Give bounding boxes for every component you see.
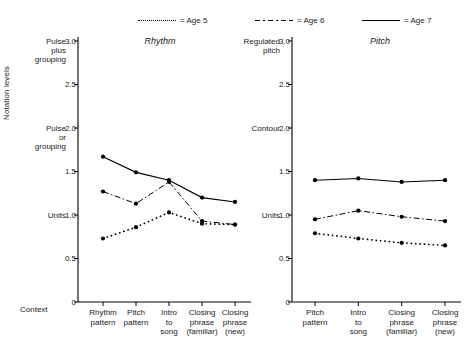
x-tick-label-line-2: phrase xyxy=(209,318,261,328)
series-line-age-5 xyxy=(315,233,445,245)
data-point-age-5 xyxy=(356,236,360,240)
series-line-age-6 xyxy=(315,211,445,221)
plot-area-pitch xyxy=(0,0,466,357)
data-point-age-7 xyxy=(443,178,447,182)
data-point-age-7 xyxy=(400,180,404,184)
chart-figure: { "legend": { "items": [ {"label": "= Ag… xyxy=(0,0,466,357)
data-point-age-6 xyxy=(400,215,404,219)
x-tick-label-line-1: Closing xyxy=(209,308,261,318)
x-tick-label-line-3: (new) xyxy=(419,327,466,337)
data-point-age-6 xyxy=(313,217,317,221)
series-line-age-7 xyxy=(315,178,445,181)
data-point-age-7 xyxy=(356,176,360,180)
x-tick-label: Closingphrase(new) xyxy=(419,308,466,337)
x-tick-label-line-1: Closing xyxy=(419,308,466,318)
data-point-age-7 xyxy=(313,178,317,182)
x-tick-label-line-2: phrase xyxy=(419,318,466,328)
x-tick-label-line-3: (new) xyxy=(209,327,261,337)
data-point-age-6 xyxy=(443,219,447,223)
x-tick-label: Closingphrase(new) xyxy=(209,308,261,337)
data-point-age-6 xyxy=(356,209,360,213)
data-point-age-5 xyxy=(400,241,404,245)
data-point-age-5 xyxy=(313,231,317,235)
data-point-age-5 xyxy=(443,243,447,247)
